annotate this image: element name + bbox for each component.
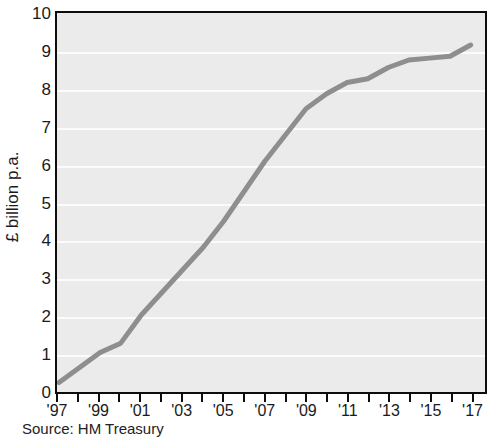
y-axis-tick-label: 1 [42,346,51,363]
y-axis-tick-label: 3 [42,270,51,287]
y-axis-title-text: £ billion p.a. [3,151,23,242]
y-axis-tick-label: 8 [42,80,51,97]
y-axis-tick-label: 4 [42,232,51,249]
y-axis-tick-label: 10 [32,5,51,22]
x-axis-tick-label: '99 [88,401,109,420]
y-axis-tick-label: 2 [42,308,51,325]
y-axis-tick-label: 9 [42,42,51,59]
series-path [59,45,471,383]
y-axis-title: £ billion p.a. [0,0,26,393]
data-series-line [57,13,485,392]
x-axis-tick-label: '07 [254,401,275,420]
x-axis-tick-label: '97 [47,401,68,420]
x-axis-tick-label: '15 [421,401,442,420]
x-axis-tick-label: '13 [379,401,400,420]
x-axis-tick-label: '09 [296,401,317,420]
x-axis-tick-label: '05 [213,401,234,420]
x-axis-tick-label: '17 [462,401,483,420]
source-note: Source: HM Treasury [22,420,164,437]
y-axis-tick-labels: 012345678910 [26,0,54,404]
x-axis-tick-label: '11 [338,401,358,420]
y-axis-tick-label: 7 [42,118,51,135]
plot-area [55,11,487,394]
x-axis-tick-label: '01 [130,401,151,420]
y-axis-tick-label: 6 [42,156,51,173]
x-axis-tick-label: '03 [171,401,192,420]
y-axis-tick-label: 0 [42,384,51,401]
y-axis-tick-label: 5 [42,194,51,211]
